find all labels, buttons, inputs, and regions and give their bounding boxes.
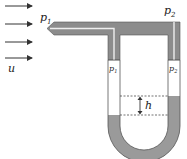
pitot-probe bbox=[47, 22, 180, 60]
flow-arrows bbox=[5, 6, 32, 58]
flow-velocity-label: u bbox=[8, 62, 15, 75]
height-difference-label: h bbox=[145, 99, 152, 112]
u-tube-manometer bbox=[108, 60, 180, 159]
static-pressure-label: p2 bbox=[164, 4, 176, 19]
left-leg-pressure-label: p1 bbox=[109, 64, 117, 74]
pitot-tube-diagram: u p1 p2 p1 p2 h bbox=[0, 0, 187, 159]
height-dimension-arrow-icon bbox=[138, 97, 143, 115]
stagnation-pressure-label: p1 bbox=[40, 11, 52, 26]
right-leg-pressure-label: p2 bbox=[169, 64, 177, 74]
